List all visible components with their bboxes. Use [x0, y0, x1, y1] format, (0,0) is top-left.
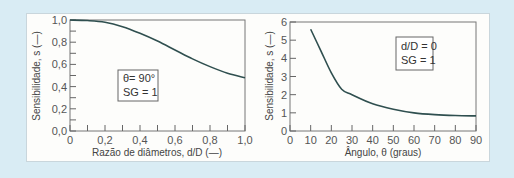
y-tick-label: 0,6: [52, 58, 67, 70]
y-tick-label: 2: [281, 89, 287, 101]
y-tick-label: 1,0: [52, 14, 67, 26]
x-tick-label: 0: [67, 134, 73, 146]
y-tick-label: 0,2: [52, 103, 67, 115]
left-x-ticks: 00,20,40,60,81,0: [67, 125, 253, 146]
x-tick-label: 70: [429, 134, 441, 146]
charts-svg: 0,00,20,40,60,81,0 00,20,40,60,81,0 θ= 9…: [0, 0, 514, 178]
x-tick-label: 0,6: [167, 134, 182, 146]
x-tick-label: 60: [408, 134, 420, 146]
y-tick-label: 3: [281, 71, 287, 83]
x-tick-label: 50: [387, 134, 399, 146]
y-tick-label: 5: [281, 34, 287, 46]
y-tick-label: 0,8: [52, 36, 67, 48]
right-legend-line1: d/D = 0: [401, 40, 437, 52]
right-legend-line2: SG = 1: [401, 54, 436, 66]
right-x-axis-label: Ângulo, θ (graus): [345, 146, 422, 158]
left-curve: [70, 20, 245, 78]
y-tick-label: 1: [281, 107, 287, 119]
right-y-axis-label: Sensibilidade, s (—): [264, 31, 275, 120]
y-tick-label: 4: [281, 52, 287, 64]
left-y-axis-label: Sensibilidade, s (—): [31, 31, 42, 120]
left-y-ticks: 0,00,20,40,60,81,0: [52, 14, 76, 137]
x-tick-label: 90: [470, 134, 482, 146]
left-x-axis-label: Razão de diâmetros, d/D (—): [92, 147, 222, 158]
right-curve: [311, 29, 476, 116]
x-tick-label: 0,2: [97, 134, 112, 146]
y-tick-label: 6: [281, 16, 287, 28]
x-tick-label: 40: [367, 134, 379, 146]
right-chart: 0123456 0102030405060708090 d/D = 0 SG =…: [264, 16, 482, 158]
left-legend-line1: θ= 90°: [123, 72, 155, 84]
x-tick-label: 1,0: [237, 134, 252, 146]
x-tick-label: 0,4: [132, 134, 147, 146]
x-tick-label: 0: [287, 134, 293, 146]
y-tick-label: 0,0: [52, 125, 67, 137]
right-y-ticks: 0123456: [281, 16, 296, 137]
right-x-ticks: 0102030405060708090: [287, 125, 482, 146]
x-tick-label: 10: [305, 134, 317, 146]
x-tick-label: 30: [346, 134, 358, 146]
y-tick-label: 0,4: [52, 81, 67, 93]
left-legend-line2: SG = 1: [123, 86, 158, 98]
x-tick-label: 80: [449, 134, 461, 146]
left-chart: 0,00,20,40,60,81,0 00,20,40,60,81,0 θ= 9…: [31, 14, 253, 158]
x-tick-label: 20: [325, 134, 337, 146]
x-tick-label: 0,8: [202, 134, 217, 146]
